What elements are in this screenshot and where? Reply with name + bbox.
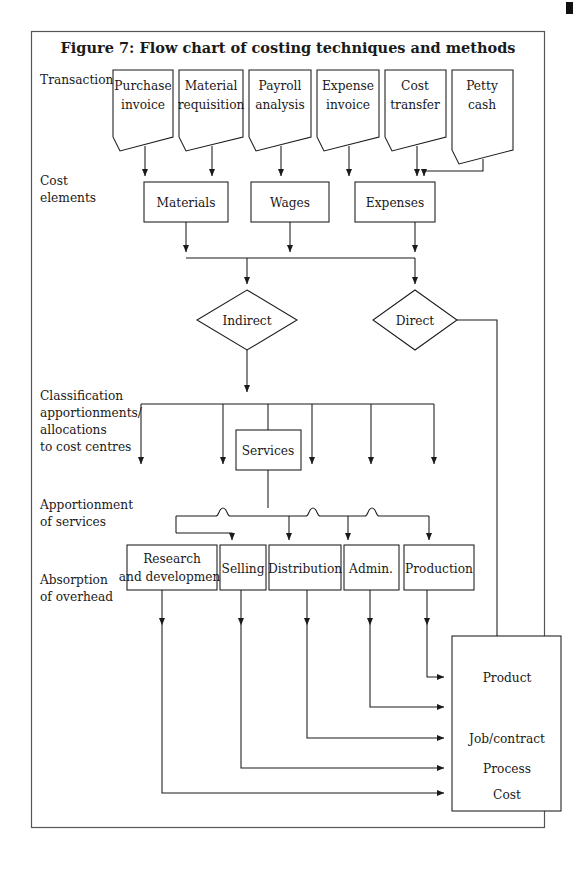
output-label-process: Process	[483, 762, 531, 776]
cost-element-label: Wages	[270, 196, 310, 210]
cost-element-node-wages[interactable]: Wages	[251, 182, 329, 222]
transaction-to-element-connectors	[145, 146, 483, 176]
row-label-cost-elements-line1: Cost	[40, 174, 68, 188]
page-title: Figure 7: Flow chart of costing techniqu…	[61, 39, 516, 56]
output-label-product: Product	[483, 671, 532, 685]
transaction-label-line2: invoice	[121, 98, 165, 112]
services-node[interactable]: Services	[236, 430, 301, 470]
output-label-cost: Cost	[493, 788, 521, 802]
services-apportionment-bus	[176, 470, 429, 540]
transaction-label-line1: Cost	[401, 79, 429, 93]
cost-centre-node-selling[interactable]: Selling	[220, 545, 266, 590]
cost-centre-node-research-and-development[interactable]: Research and development	[119, 545, 226, 590]
transaction-node-cost-transfer[interactable]: Cost transfer	[385, 70, 446, 151]
absorption-connectors	[162, 590, 444, 793]
cost-element-label: Materials	[157, 196, 216, 210]
output-node-absorption-targets[interactable]: Product Job/contract Process Cost	[452, 636, 561, 811]
row-label-classification-line3: allocations	[40, 423, 107, 437]
transaction-label-line2: cash	[468, 98, 496, 112]
cost-element-label: Expenses	[366, 196, 424, 210]
row-label-classification-line2: apportionments/	[40, 406, 143, 420]
cost-centre-label-line1: Distribution	[268, 562, 342, 576]
page-artifact-mark	[566, 2, 573, 14]
element-to-decision-connectors	[186, 222, 415, 284]
transaction-label-line1: Material	[185, 79, 238, 93]
cost-centre-node-admin[interactable]: Admin.	[344, 545, 399, 590]
cost-centre-node-production[interactable]: Production	[404, 545, 474, 590]
decision-label: Direct	[396, 314, 435, 328]
decision-node-indirect[interactable]: Indirect	[197, 290, 297, 350]
row-label-apportionment-line1: Apportionment	[39, 498, 133, 512]
row-label-cost-elements-line2: elements	[40, 191, 96, 205]
transaction-label-line2: requisition	[178, 98, 245, 112]
output-label-job-contract: Job/contract	[467, 732, 545, 746]
cost-centre-label-line2: and development	[119, 570, 226, 584]
figure-canvas: Figure 7: Flow chart of costing techniqu…	[0, 0, 581, 871]
transaction-label-line1: Payroll	[259, 79, 302, 93]
transaction-label-line1: Petty	[466, 79, 498, 93]
row-label-classification-line1: Classification	[40, 389, 123, 403]
transaction-node-purchase-invoice[interactable]: Purchase invoice	[113, 70, 173, 151]
transaction-label-line1: Expense	[322, 79, 374, 93]
decision-label: Indirect	[222, 314, 271, 328]
transaction-label-line2: transfer	[390, 98, 440, 112]
cost-centre-label-line1: Selling	[222, 562, 265, 576]
row-label-classification-line4: to cost centres	[40, 440, 131, 454]
services-label: Services	[242, 444, 294, 458]
cost-element-node-expenses[interactable]: Expenses	[355, 182, 435, 222]
transaction-label-line1: Purchase	[114, 79, 171, 93]
transaction-node-payroll-analysis[interactable]: Payroll analysis	[249, 70, 311, 151]
row-label-absorption-line1: Absorption	[39, 573, 108, 587]
transaction-node-expense-invoice[interactable]: Expense invoice	[317, 70, 379, 151]
transaction-node-petty-cash[interactable]: Petty cash	[452, 70, 513, 164]
row-label-absorption-line2: of overhead	[40, 590, 113, 604]
cost-centre-label-line1: Research	[143, 552, 201, 566]
cost-centre-label-line1: Production	[405, 562, 473, 576]
row-label-apportionment-line2: of services	[40, 515, 106, 529]
cost-element-node-materials[interactable]: Materials	[144, 182, 228, 222]
transaction-label-line2: analysis	[255, 98, 305, 112]
row-label-transactions: Transactions	[40, 73, 120, 87]
transaction-node-material-requisition[interactable]: Material requisition	[178, 70, 245, 151]
cost-centre-label-line1: Admin.	[348, 562, 393, 576]
cost-centre-node-distribution[interactable]: Distribution	[268, 545, 342, 590]
transaction-label-line2: invoice	[326, 98, 370, 112]
decision-node-direct[interactable]: Direct	[373, 290, 457, 350]
